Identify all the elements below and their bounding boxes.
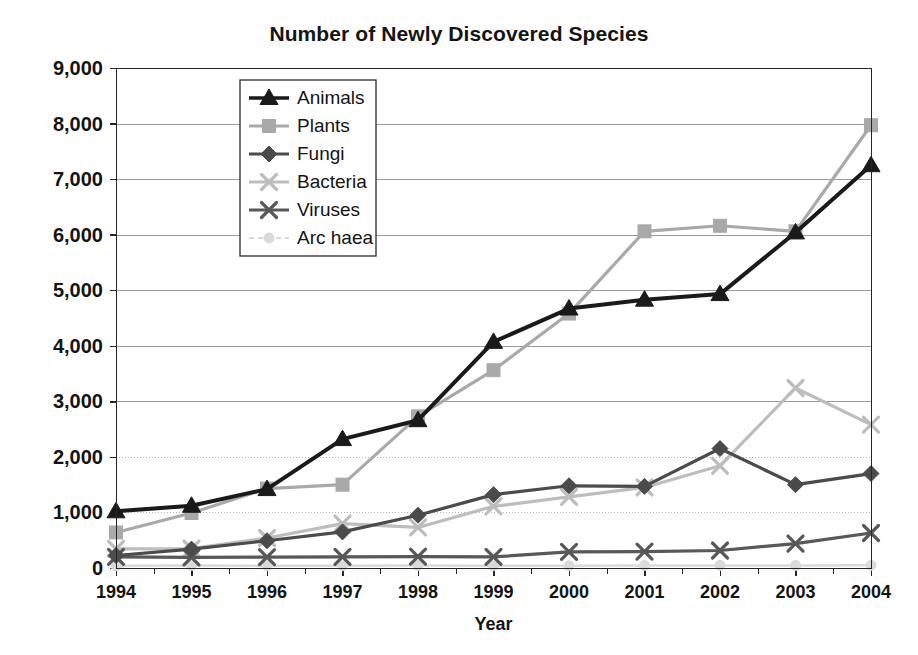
data-point-marker — [712, 441, 728, 457]
data-point-marker — [263, 120, 276, 133]
y-tick-label: 0 — [92, 557, 103, 579]
x-tick-label: 2002 — [700, 582, 740, 602]
x-tick-label: 2004 — [851, 582, 891, 602]
data-point-marker — [264, 233, 274, 243]
data-point-marker — [335, 524, 351, 540]
x-tick-label: 2000 — [549, 582, 589, 602]
data-point-marker — [336, 478, 349, 491]
series-line — [116, 388, 871, 549]
y-tick-label: 2,000 — [53, 446, 103, 468]
legend-label: Bacteria — [297, 171, 367, 192]
x-tick-label: 1996 — [247, 582, 287, 602]
gridlines — [116, 69, 871, 513]
series-line — [116, 125, 871, 532]
x-tick-label: 1998 — [398, 582, 438, 602]
y-tick-label: 4,000 — [53, 335, 103, 357]
series-plants — [110, 119, 878, 539]
y-tick-label: 6,000 — [53, 224, 103, 246]
legend-label: Viruses — [297, 199, 360, 220]
legend-label: Animals — [297, 87, 365, 108]
y-tick-label: 1,000 — [53, 501, 103, 523]
data-point-marker — [259, 533, 275, 549]
y-tick-label: 8,000 — [53, 113, 103, 135]
legend-label: Plants — [297, 115, 350, 136]
chart-figure: Number of Newly Discovered Species 01,00… — [0, 0, 918, 655]
data-point-marker — [788, 477, 804, 493]
x-tick-label: 1995 — [171, 582, 211, 602]
data-point-marker — [714, 219, 727, 232]
x-tick-label: 1997 — [322, 582, 362, 602]
y-axis: 01,0002,0003,0004,0005,0006,0007,0008,00… — [53, 57, 116, 579]
y-tick-label: 9,000 — [53, 57, 103, 79]
chart-legend: AnimalsPlantsFungiBacteriaVirusesArc hae… — [240, 80, 376, 256]
y-tick-label: 5,000 — [53, 279, 103, 301]
y-tick-label: 3,000 — [53, 390, 103, 412]
x-tick-label: 1999 — [473, 582, 513, 602]
series-animals — [107, 156, 880, 518]
legend-label: Fungi — [297, 143, 345, 164]
y-tick-label: 7,000 — [53, 168, 103, 190]
data-point-marker — [788, 381, 803, 396]
x-tick-label: 2001 — [624, 582, 664, 602]
data-point-marker — [638, 225, 651, 238]
x-axis: 1994199519961997199819992000200120022003… — [96, 568, 891, 634]
line-chart-plot: 01,0002,0003,0004,0005,0006,0007,0008,00… — [0, 0, 918, 655]
x-axis-title: Year — [474, 614, 512, 634]
x-tick-label: 1994 — [96, 582, 136, 602]
legend-label: Arc haea — [297, 227, 373, 248]
data-point-marker — [487, 364, 500, 377]
x-tick-label: 2003 — [775, 582, 815, 602]
